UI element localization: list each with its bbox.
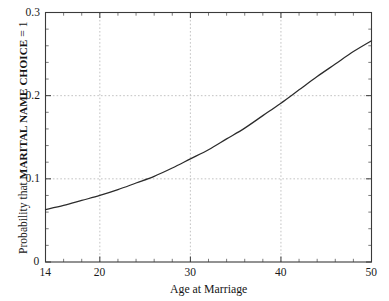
plot-canvas <box>0 0 389 301</box>
y-axis-label-suffix: = 1 <box>17 21 30 39</box>
y-axis-label: Probability that MARITAL NAME CHOICE = 1 <box>18 21 30 254</box>
x-tick-label: 40 <box>275 267 287 279</box>
y-axis-label-prefix: Probability that <box>17 179 30 254</box>
y-tick-label: 0 <box>34 256 40 268</box>
axis-ticks <box>46 13 372 263</box>
x-tick-label: 50 <box>366 267 378 279</box>
x-axis-label: Age at Marriage <box>170 284 247 296</box>
x-tick-label: 20 <box>94 267 106 279</box>
y-tick-label: 0.3 <box>26 7 40 19</box>
axis-frame <box>46 13 372 263</box>
gridlines <box>46 13 372 263</box>
y-axis-label-variable: MARITAL NAME CHOICE <box>17 39 29 179</box>
x-tick-label: 14 <box>40 267 52 279</box>
x-tick-label: 30 <box>184 267 196 279</box>
chart-figure: 142030405000.10.20.3 Probability that MA… <box>0 0 389 301</box>
probability-curve <box>46 41 372 210</box>
